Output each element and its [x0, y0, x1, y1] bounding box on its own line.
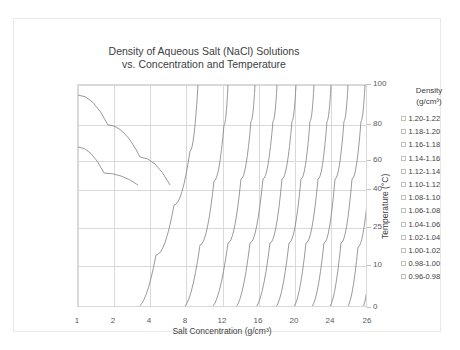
legend-item-label: 1.20-1.22 [409, 114, 441, 123]
y-axis-label: 80 [373, 119, 382, 128]
contour-lines [78, 85, 367, 307]
legend-item: 1.06-1.08 [401, 204, 460, 217]
legend-item-label: 0.96-0.98 [409, 272, 441, 281]
x-axis-title: Salt Concentration (g/cm³) [77, 326, 367, 336]
plot-wrapper: 10080604025100 12481216202426 [77, 84, 367, 307]
legend-item-label: 0.98-1.00 [409, 259, 441, 268]
y-axis-title-text: Temperature (°C) [380, 174, 390, 239]
legend-swatch [401, 261, 406, 266]
legend-swatch [401, 142, 406, 147]
y-axis-tick [367, 189, 371, 190]
legend-item: 1.16-1.18 [401, 138, 460, 151]
chart-title: Density of Aqueous Salt (NaCl) Solutions… [54, 45, 354, 71]
y-axis-tick [367, 227, 371, 228]
legend-items: 1.20-1.221.18-1.201.16-1.181.14-1.161.12… [401, 112, 460, 283]
y-axis-label: 10 [373, 260, 382, 269]
x-axis-label: 16 [246, 316, 270, 325]
legend-item-label: 1.18-1.20 [409, 127, 441, 136]
chart-title-line-1: Density of Aqueous Salt (NaCl) Solutions [54, 45, 354, 58]
x-axis-label: 8 [173, 316, 197, 325]
legend-item-label: 1.04-1.06 [409, 220, 441, 229]
y-axis-tick [367, 265, 371, 266]
x-axis-label: 24 [318, 316, 342, 325]
contour-line [78, 95, 170, 185]
legend-swatch [401, 116, 406, 121]
legend-title-line-1: Density [401, 85, 457, 96]
contour-plot-svg [78, 85, 367, 307]
contour-line [210, 85, 255, 307]
legend-swatch [401, 195, 406, 200]
legend-item-label: 1.16-1.18 [409, 140, 441, 149]
legend-item-label: 1.02-1.04 [409, 233, 441, 242]
legend-item: 1.02-1.04 [401, 231, 460, 244]
legend-item: 1.08-1.10 [401, 191, 460, 204]
legend-swatch [401, 208, 406, 213]
chart-legend: Density (g/cm³) 1.20-1.221.18-1.201.16-1… [401, 85, 460, 283]
legend-swatch [401, 222, 406, 227]
y-axis-tick [367, 124, 371, 125]
legend-item: 1.04-1.06 [401, 218, 460, 231]
x-axis-label: 26 [355, 316, 379, 325]
legend-item: 1.20-1.22 [401, 112, 460, 125]
contour-line [292, 85, 331, 307]
chart-frame: Density of Aqueous Salt (NaCl) Solutions… [13, 18, 441, 332]
y-axis-label: 0 [373, 302, 377, 311]
x-axis-label: 20 [282, 316, 306, 325]
contour-line [234, 85, 277, 307]
legend-item: 0.96-0.98 [401, 270, 460, 283]
contour-line [310, 85, 348, 307]
x-axis-label: 12 [210, 316, 234, 325]
legend-item-label: 1.08-1.10 [409, 193, 441, 202]
legend-swatch [401, 156, 406, 161]
contour-line [362, 281, 367, 307]
legend-item-label: 1.00-1.02 [409, 246, 441, 255]
x-axis-label: 4 [137, 316, 161, 325]
legend-item: 1.00-1.02 [401, 244, 460, 257]
legend-title: Density (g/cm³) [401, 85, 457, 107]
legend-title-line-2: (g/cm³) [401, 96, 457, 107]
y-axis-label: 60 [373, 155, 382, 164]
legend-item-label: 1.06-1.08 [409, 206, 441, 215]
chart-title-line-2: vs. Concentration and Temperature [54, 58, 354, 71]
legend-swatch [401, 182, 406, 187]
legend-item-label: 1.10-1.12 [409, 180, 441, 189]
contour-line [182, 85, 228, 307]
legend-item: 1.12-1.14 [401, 165, 460, 178]
contour-line [254, 85, 296, 307]
x-axis-label: 2 [101, 316, 125, 325]
x-axis-label: 1 [65, 316, 89, 325]
y-axis-tick [367, 307, 371, 308]
contour-line [136, 85, 198, 307]
legend-item-label: 1.14-1.16 [409, 154, 441, 163]
y-axis-tick [367, 84, 371, 85]
gridlines [78, 85, 367, 307]
legend-swatch [401, 248, 406, 253]
legend-swatch [401, 274, 406, 279]
legend-item: 1.10-1.12 [401, 178, 460, 191]
legend-item: 1.18-1.20 [401, 125, 460, 138]
legend-item-label: 1.12-1.14 [409, 167, 441, 176]
plot-area [77, 84, 367, 307]
y-axis-tick [367, 160, 371, 161]
contour-line [78, 147, 138, 185]
legend-swatch [401, 169, 406, 174]
legend-item: 1.14-1.16 [401, 152, 460, 165]
legend-swatch [401, 235, 406, 240]
legend-swatch [401, 129, 406, 134]
y-axis-label: 100 [373, 79, 386, 88]
legend-item: 0.98-1.00 [401, 257, 460, 270]
